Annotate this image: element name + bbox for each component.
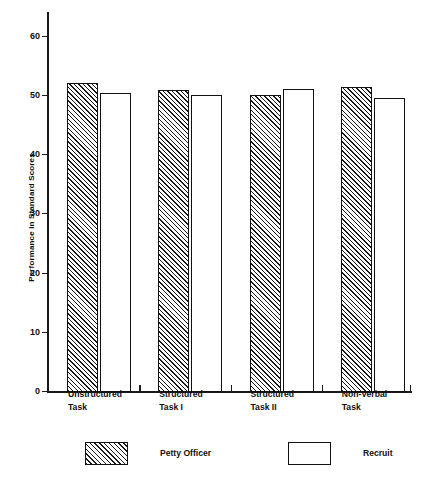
plot-area: 0102030405060 — [47, 12, 412, 392]
x-category-label: Non-VerbalTask — [342, 388, 421, 414]
legend-swatch-icon — [288, 442, 331, 465]
legend-item-recruit[interactable]: Recruit — [288, 440, 393, 466]
bar-chart-figure: Performance in Standard Scores 010203040… — [0, 0, 421, 483]
y-tick-mark — [42, 95, 47, 96]
y-tick-mark — [42, 36, 47, 37]
y-tick-mark — [42, 154, 47, 155]
bar-petty-officer-4 — [341, 87, 372, 392]
y-tick-mark — [42, 213, 47, 214]
x-category-label-line2: Task — [342, 401, 421, 414]
legend-label: Petty Officer — [160, 448, 211, 458]
bar-petty-officer-1 — [67, 83, 98, 392]
legend-item-petty-officer[interactable]: Petty Officer — [85, 440, 211, 466]
y-axis-line — [47, 12, 49, 392]
bar-petty-officer-2 — [158, 90, 189, 392]
bar-recruit-1 — [100, 93, 131, 392]
y-tick-mark — [42, 332, 47, 333]
y-tick-label: 0 — [35, 386, 40, 396]
y-tick-label: 50 — [30, 90, 40, 100]
y-tick-label: 20 — [30, 268, 40, 278]
bar-recruit-4 — [374, 98, 405, 392]
y-tick-label: 10 — [30, 327, 40, 337]
y-tick-label: 30 — [30, 208, 40, 218]
y-tick-mark — [42, 391, 47, 392]
legend-label: Recruit — [363, 448, 393, 458]
x-category-label-line1: Non-Verbal — [342, 388, 421, 401]
x-tick-mark — [48, 385, 49, 392]
y-tick-label: 40 — [30, 149, 40, 159]
chart-legend: Petty OfficerRecruit — [47, 440, 412, 474]
y-tick-label: 60 — [30, 31, 40, 41]
bar-recruit-2 — [191, 95, 222, 392]
bar-petty-officer-3 — [250, 95, 281, 392]
bar-recruit-3 — [283, 89, 314, 392]
legend-swatch-icon — [85, 442, 128, 465]
y-tick-mark — [42, 273, 47, 274]
